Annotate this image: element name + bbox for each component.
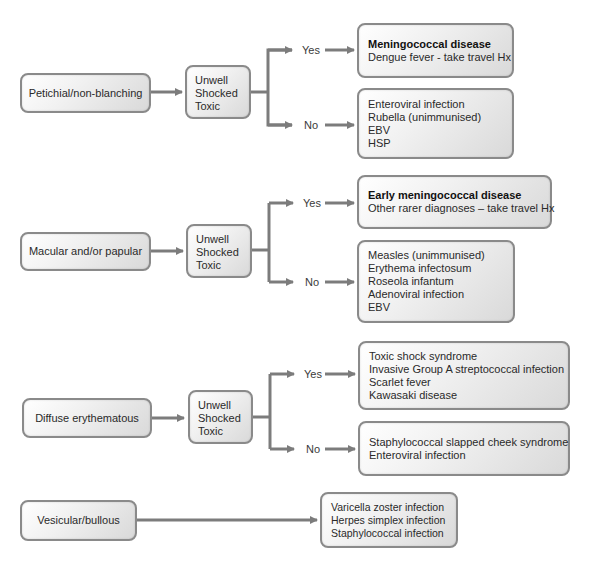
branch-label-no: No [304, 119, 318, 131]
rash-type-label: Diffuse erythematous [35, 412, 139, 425]
diagnosis-box-no: Staphylococcal slapped cheek syndrome En… [358, 421, 570, 476]
diagnosis-item: Dengue fever - take travel Hx [368, 51, 503, 64]
rash-type-label: Vesicular/bullous [37, 514, 120, 527]
diagnosis-primary: Meningococcal disease [368, 38, 503, 51]
branch-label-no: No [306, 443, 320, 455]
diagnosis-item: Kawasaki disease [369, 389, 559, 402]
branch-label-yes: Yes [304, 368, 322, 380]
diagnosis-primary: Early meningococcal disease [368, 189, 541, 202]
condition-line: Toxic [195, 100, 241, 113]
rash-type-diffuse-erythematous: Diffuse erythematous [22, 398, 152, 438]
diagnosis-box-no: Enteroviral infection Rubella (unimmunis… [357, 88, 514, 159]
condition-line: Shocked [195, 87, 241, 100]
condition-box: Unwell Shocked Toxic [188, 390, 253, 444]
diagnosis-item: Invasive Group A streptococcal infection [369, 363, 559, 376]
diagnosis-box-no: Measles (unimmunised) Erythema infectosu… [357, 240, 515, 323]
diagnosis-box-yes: Early meningococcal disease Other rarer … [357, 175, 552, 229]
diagnosis-box-yes: Toxic shock syndrome Invasive Group A st… [358, 341, 570, 410]
diagnosis-item: Herpes simplex infection [331, 514, 447, 527]
diagnosis-item: Rubella (unimmunised) [368, 111, 503, 124]
rash-type-label: Macular and/or papular [29, 245, 142, 258]
condition-line: Unwell [198, 399, 243, 412]
branch-label-no: No [305, 276, 319, 288]
condition-line: Shocked [196, 246, 242, 259]
rash-type-vesicular-bullous: Vesicular/bullous [20, 500, 137, 541]
condition-box: Unwell Shocked Toxic [185, 65, 251, 119]
diagnosis-item: Enteroviral infection [369, 449, 559, 462]
diagnosis-item: EBV [368, 301, 504, 314]
diagnosis-item: Staphylococcal slapped cheek syndrome [369, 436, 559, 449]
diagnosis-box-direct: Varicella zoster infection Herpes simple… [320, 492, 458, 548]
diagnosis-item: Adenoviral infection [368, 288, 504, 301]
condition-line: Unwell [195, 74, 241, 87]
diagnosis-item: Varicella zoster infection [331, 501, 447, 514]
condition-line: Toxic [198, 425, 243, 438]
rash-type-label: Petichial/non-blanching [29, 87, 143, 100]
diagnosis-item: Roseola infantum [368, 275, 504, 288]
condition-line: Unwell [196, 233, 242, 246]
condition-line: Shocked [198, 412, 243, 425]
diagnosis-item: Toxic shock syndrome [369, 350, 559, 363]
condition-line: Toxic [196, 259, 242, 272]
condition-box: Unwell Shocked Toxic [186, 224, 252, 278]
diagnosis-item: Staphylococcal infection [331, 527, 447, 540]
diagnosis-item: Other rarer diagnoses – take travel Hx [368, 202, 541, 215]
diagnosis-item: Measles (unimmunised) [368, 249, 504, 262]
branch-label-yes: Yes [302, 44, 320, 56]
diagnosis-item: HSP [368, 137, 503, 150]
diagnosis-item: Enteroviral infection [368, 98, 503, 111]
branch-label-yes: Yes [303, 197, 321, 209]
diagnosis-item: EBV [368, 124, 503, 137]
diagnosis-item: Scarlet fever [369, 376, 559, 389]
rash-type-macular-papular: Macular and/or papular [20, 232, 151, 271]
diagnosis-box-yes: Meningococcal disease Dengue fever - tak… [357, 23, 514, 78]
rash-type-petechial: Petichial/non-blanching [20, 73, 151, 113]
diagnosis-item: Erythema infectosum [368, 262, 504, 275]
